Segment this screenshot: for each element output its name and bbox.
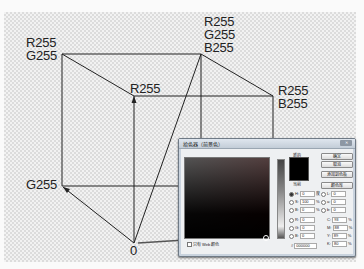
s-input[interactable]: 100: [300, 199, 315, 205]
radio-rgb-b[interactable]: [289, 234, 294, 239]
field-label: G:: [295, 225, 299, 230]
label-right-front: R255 B255: [278, 84, 308, 110]
color-picker-dialog: 拾色器（前景色） ✕ 新的 当前 确定 取消 添加到色板 颜色库 H: 0 度 …: [178, 138, 356, 257]
dialog-titlebar[interactable]: 拾色器（前景色） ✕: [179, 139, 355, 149]
lab-row-b: b: 0: [321, 207, 346, 213]
ok-button[interactable]: 确定: [321, 153, 353, 160]
label-line: B255: [204, 41, 235, 54]
a-input[interactable]: 0: [331, 199, 346, 205]
unit-label: %: [316, 207, 320, 212]
y-input[interactable]: 89: [332, 233, 347, 239]
field-label: C:: [327, 217, 331, 222]
label-line: R255: [130, 82, 160, 95]
radio-r[interactable]: [289, 218, 294, 223]
unit-label: %: [348, 241, 352, 246]
field-label: R:: [295, 217, 299, 222]
field-label: L:: [327, 191, 330, 196]
color-field[interactable]: [184, 157, 270, 239]
radio-a[interactable]: [321, 200, 326, 205]
h-input[interactable]: 0: [300, 191, 315, 197]
close-button[interactable]: ✕: [340, 140, 352, 146]
unit-label: %: [348, 233, 352, 238]
label-line: G255: [26, 49, 57, 62]
dialog-title: 拾色器（前景色）: [183, 140, 223, 147]
add-to-swatches-button[interactable]: 添加到色板: [321, 171, 353, 178]
rgb-b-input[interactable]: 0: [300, 233, 315, 239]
cancel-button[interactable]: 取消: [321, 161, 353, 168]
radio-h[interactable]: [289, 192, 294, 197]
rgb-row-r: R: 0: [289, 217, 315, 223]
web-colors-only-checkbox[interactable]: 只有 Web 颜色: [187, 241, 219, 247]
label-line: B255: [278, 97, 308, 110]
label-top-front: R255: [130, 82, 160, 95]
current-color-label: 当前: [293, 181, 301, 187]
hex-input[interactable]: 000000: [294, 243, 317, 249]
radio-b[interactable]: [289, 208, 294, 213]
label-top-left-back: R255 G255: [26, 36, 57, 62]
hex-label: #: [291, 243, 293, 248]
unit-label: %: [349, 225, 353, 230]
web-only-label: 只有 Web 颜色: [193, 242, 219, 247]
radio-g[interactable]: [289, 226, 294, 231]
field-label: a:: [327, 199, 330, 204]
field-label: B:: [295, 207, 299, 212]
lab-row-l: L: 0: [321, 191, 346, 197]
field-label: B:: [295, 233, 299, 238]
field-label: Y:: [327, 233, 331, 238]
hsb-row-b: B: 0 %: [289, 207, 320, 213]
label-top-right-back: R255 G255 B255: [204, 15, 235, 54]
unit-label: %: [348, 217, 352, 222]
radio-lab-b[interactable]: [321, 208, 326, 213]
r-input[interactable]: 0: [300, 217, 315, 223]
color-marker-handle[interactable]: [263, 235, 269, 241]
field-label: S:: [295, 199, 299, 204]
label-bottom-left: G255: [26, 178, 57, 191]
hsb-row-h: H: 0 度: [289, 191, 320, 197]
unit-label: 度: [316, 191, 320, 196]
color-swatch: [289, 157, 309, 181]
hsb-row-s: S: 100 %: [289, 199, 320, 205]
cmyk-row-c: C: 93 %: [327, 217, 352, 223]
field-label: M:: [327, 225, 331, 230]
cmyk-row-m: M: 88 %: [327, 225, 352, 231]
hex-row: # 000000: [291, 243, 317, 249]
radio-l[interactable]: [321, 192, 326, 197]
field-label: K:: [327, 241, 331, 246]
rgb-row-b: B: 0: [289, 233, 315, 239]
k-input[interactable]: 80: [332, 241, 347, 247]
lab-b-input[interactable]: 0: [331, 207, 346, 213]
radio-s[interactable]: [289, 200, 294, 205]
l-input[interactable]: 0: [331, 191, 346, 197]
field-label: b:: [327, 207, 330, 212]
label-line: 0: [130, 244, 137, 257]
hue-slider[interactable]: [277, 159, 285, 239]
label-line: G255: [26, 178, 57, 191]
c-input[interactable]: 93: [332, 217, 347, 223]
cmyk-row-y: Y: 89 %: [327, 233, 351, 239]
label-origin: 0: [130, 244, 137, 257]
cmyk-row-k: K: 80 %: [327, 241, 352, 247]
color-libraries-button[interactable]: 颜色库: [321, 182, 353, 189]
unit-label: %: [316, 199, 320, 204]
g-input[interactable]: 0: [300, 225, 315, 231]
b-input[interactable]: 0: [300, 207, 315, 213]
rgb-row-g: G: 0: [289, 225, 315, 231]
lab-row-a: a: 0: [321, 199, 346, 205]
m-input[interactable]: 88: [333, 225, 348, 231]
checkbox-box[interactable]: [187, 242, 192, 247]
field-label: H:: [295, 191, 299, 196]
